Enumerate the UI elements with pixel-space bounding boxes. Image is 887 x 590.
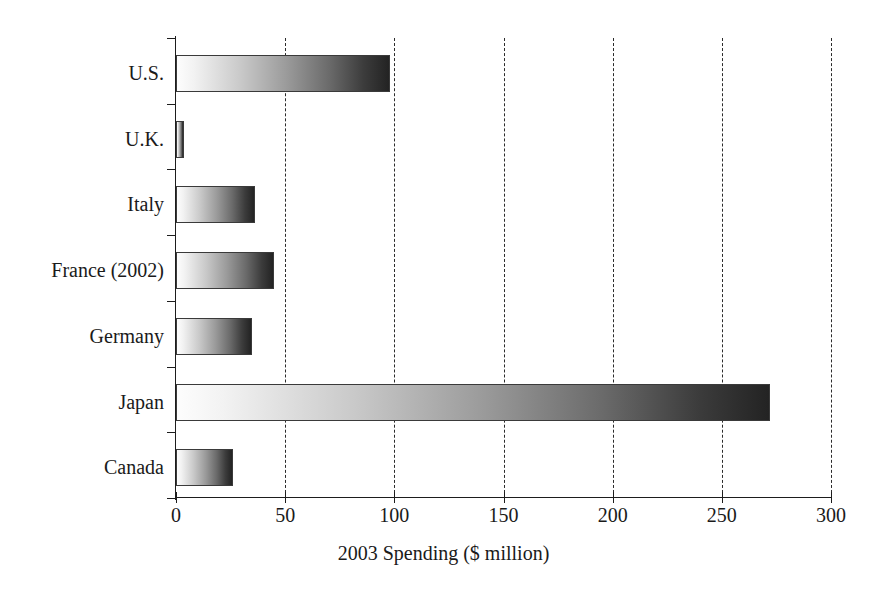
x-axis-tick bbox=[831, 492, 832, 503]
x-axis-tick bbox=[722, 492, 723, 503]
gridline-50 bbox=[285, 38, 286, 498]
y-axis-tick bbox=[167, 367, 176, 368]
x-axis-tick bbox=[176, 492, 177, 503]
bar-canada[interactable] bbox=[176, 449, 233, 486]
x-axis-title: 2003 Spending ($ million) bbox=[0, 543, 887, 563]
gridline-300 bbox=[831, 38, 832, 498]
gridline-100 bbox=[394, 38, 395, 498]
bar-italy[interactable] bbox=[176, 186, 255, 223]
bar-chart: U.S. U.K. Italy France (2002) Germany Ja… bbox=[0, 0, 887, 590]
y-axis-line bbox=[175, 36, 176, 500]
x-axis-tick bbox=[394, 492, 395, 503]
x-axis-tick-label: 150 bbox=[489, 505, 519, 525]
x-axis-tick-label: 200 bbox=[598, 505, 628, 525]
x-axis-tick-label: 0 bbox=[171, 505, 181, 525]
y-axis-tick bbox=[167, 169, 176, 170]
x-axis-tick-label: 50 bbox=[275, 505, 295, 525]
x-axis-tick bbox=[504, 492, 505, 503]
y-axis-label-france: France (2002) bbox=[51, 260, 164, 280]
y-axis-label-japan: Japan bbox=[118, 392, 164, 412]
y-axis-tick bbox=[167, 498, 176, 499]
x-axis-tick bbox=[613, 492, 614, 503]
x-axis-tick-label: 250 bbox=[707, 505, 737, 525]
y-axis-label-italy: Italy bbox=[127, 194, 164, 214]
plot-area bbox=[176, 38, 831, 498]
x-axis-tick-label: 100 bbox=[379, 505, 409, 525]
y-axis-tick bbox=[167, 38, 176, 39]
y-axis-tick bbox=[167, 104, 176, 105]
gridline-200 bbox=[613, 38, 614, 498]
y-axis-label-uk: U.K. bbox=[125, 129, 164, 149]
bar-france[interactable] bbox=[176, 252, 274, 289]
bar-uk[interactable] bbox=[176, 121, 184, 158]
x-axis-tick bbox=[285, 492, 286, 503]
y-axis-label-us: U.S. bbox=[128, 63, 164, 83]
y-axis-tick bbox=[167, 301, 176, 302]
y-axis-tick bbox=[167, 432, 176, 433]
bar-japan[interactable] bbox=[176, 384, 770, 421]
gridline-150 bbox=[504, 38, 505, 498]
bar-us[interactable] bbox=[176, 55, 390, 92]
y-axis-tick bbox=[167, 235, 176, 236]
y-axis-labels: U.S. U.K. Italy France (2002) Germany Ja… bbox=[0, 0, 164, 590]
y-axis-label-germany: Germany bbox=[90, 326, 164, 346]
bar-germany[interactable] bbox=[176, 318, 252, 355]
y-axis-label-canada: Canada bbox=[104, 457, 164, 477]
x-axis-tick-label: 300 bbox=[816, 505, 846, 525]
gridline-250 bbox=[722, 38, 723, 498]
